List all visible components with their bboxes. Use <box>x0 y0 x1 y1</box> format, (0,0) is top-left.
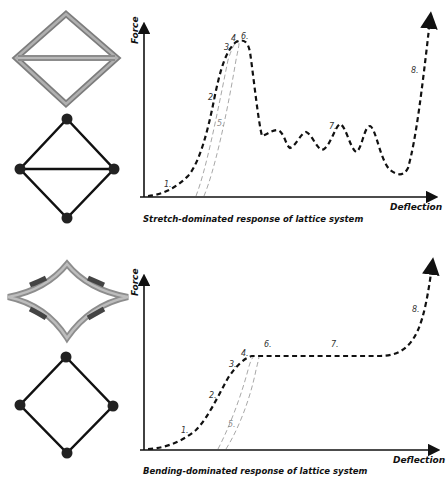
stretch-label-7: 7. <box>329 122 337 131</box>
bending-deformed-lattice-icon <box>8 264 128 338</box>
bending-unloading-curve-2 <box>226 356 259 449</box>
bending-panel: Force Deflection Bending-dominated respo… <box>8 264 445 476</box>
stretch-deformed-lattice-icon <box>16 14 117 104</box>
stretch-label-5: 5. <box>217 119 225 128</box>
bending-x-axis-label: Deflection <box>393 455 445 465</box>
bending-label-6: 6. <box>264 340 272 349</box>
stretch-x-axis-label: Deflection <box>390 202 442 212</box>
bending-loading-curve <box>148 266 432 449</box>
stretch-caption: Stretch-dominated response of lattice sy… <box>143 214 363 224</box>
stretch-unloading-curve-1 <box>196 43 236 196</box>
stretch-loading-curve <box>148 20 430 196</box>
bending-label-4: 4. <box>241 349 249 358</box>
bending-schematic-lattice-icon <box>15 352 119 459</box>
bending-caption: Bending-dominated response of lattice sy… <box>143 466 368 476</box>
bending-label-3: 3. <box>229 360 237 369</box>
bending-label-7: 7. <box>331 340 339 349</box>
stretch-schematic-lattice-icon <box>15 114 120 224</box>
stretch-label-3: 3. <box>224 43 232 52</box>
stretch-label-4: 4. <box>231 34 239 43</box>
bending-y-axis-label: Force <box>130 268 140 296</box>
stretch-label-2: 2. <box>208 93 216 102</box>
bending-label-2: 2. <box>209 391 217 400</box>
bending-label-1: 1. <box>181 426 189 435</box>
stretch-label-6: 6. <box>241 32 249 41</box>
stretch-label-1: 1. <box>164 180 172 189</box>
stretch-label-8: 8. <box>411 66 419 75</box>
bending-label-5: 5. <box>228 420 236 429</box>
stretch-panel: Force Deflection Stretch-dominated respo… <box>15 14 443 224</box>
stretch-y-axis-label: Force <box>130 16 140 44</box>
bending-unloading-curve-1 <box>218 356 254 449</box>
figure-canvas: Force Deflection Stretch-dominated respo… <box>0 0 446 483</box>
bending-label-8: 8. <box>412 305 420 314</box>
